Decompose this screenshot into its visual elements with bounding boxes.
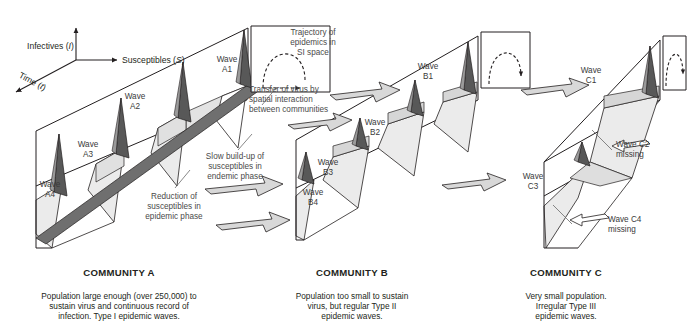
wave-label-c1: Wave C1	[574, 66, 608, 85]
axis-label-infectives: Infectives (I)	[27, 41, 74, 51]
annotation-slow-buildup: Slow build-up of susceptibles in endemic…	[194, 152, 276, 181]
caption-title-c: COMMUNITY C	[468, 268, 664, 278]
wave-label-b2: Wave B2	[358, 118, 392, 137]
caption-title-b: COMMUNITY B	[252, 268, 452, 278]
axis-label-susceptibles: Susceptibles (S)	[122, 55, 185, 65]
wave-label-c4-missing: Wave C4 missing	[608, 215, 658, 234]
caption-community-b: COMMUNITY B Population too small to sust…	[252, 258, 452, 321]
trajectory-box-c	[663, 36, 686, 90]
wave-label-b4: Wave B4	[296, 188, 330, 207]
wave-label-a2: Wave A2	[118, 92, 152, 111]
transfer-arrow-2	[216, 212, 290, 232]
community-c-bottom-edge	[578, 178, 632, 248]
trajectory-panel-b	[481, 32, 530, 88]
caption-body-c: Very small population. Irregular Type II…	[525, 291, 606, 321]
trajectory-panel-c	[663, 36, 686, 90]
caption-community-a: COMMUNITY A Population large enough (ove…	[8, 258, 230, 321]
wave-c4-missing-arrow	[570, 214, 609, 226]
wave-label-b1: Wave B1	[411, 62, 445, 81]
community-b-bottom-edge	[304, 208, 358, 240]
caption-title-a: COMMUNITY A	[8, 268, 230, 278]
trajectory-box-b	[481, 32, 530, 88]
transfer-arrow-5	[442, 173, 506, 191]
annotation-trajectory: Trajectory of epidemics in SI space	[279, 28, 347, 57]
figure-canvas: Infectives (I) Susceptibles (S) Time (t)…	[0, 0, 692, 323]
leader-slow-buildup	[238, 134, 252, 150]
wave-label-b3: Wave B3	[311, 158, 345, 177]
wave-label-a1: Wave A1	[210, 55, 244, 74]
caption-body-a: Population large enough (over 250,000) t…	[41, 291, 196, 321]
caption-body-b: Population too small to sustain virus, b…	[296, 291, 409, 321]
annotation-reduction: Reduction of susceptibles in epidemic ph…	[134, 192, 214, 221]
wave-label-c3: Wave C3	[516, 172, 550, 191]
wave-label-a4: Wave A4	[33, 180, 67, 199]
annotation-transfer: Transfer of virus by spatial interaction…	[249, 85, 345, 114]
wave-label-c2-missing: Wave C2 missing	[616, 140, 666, 159]
wave-label-a3: Wave A3	[71, 140, 105, 159]
caption-community-c: COMMUNITY C Very small population. Irreg…	[468, 258, 664, 321]
